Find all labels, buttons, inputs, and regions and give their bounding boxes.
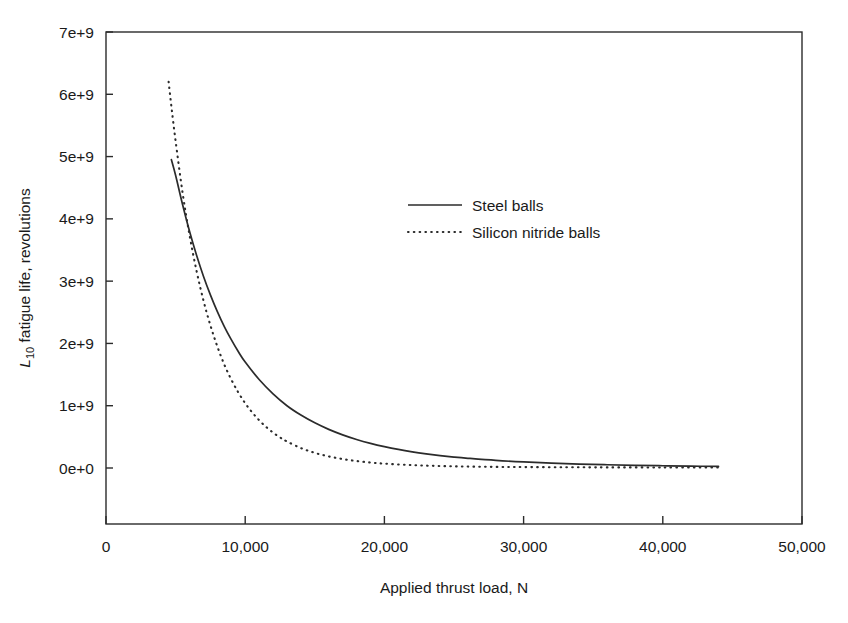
legend-label-steel-balls: Steel balls — [472, 197, 544, 214]
legend-label-silicon-nitride-balls: Silicon nitride balls — [472, 224, 601, 241]
fatigue-life-line-chart: 0e+01e+92e+93e+94e+95e+96e+97e+9 010,000… — [0, 0, 848, 623]
y-tick-label: 0e+0 — [59, 460, 94, 477]
y-tick-label: 3e+9 — [59, 273, 94, 290]
x-tick-label: 0 — [102, 538, 111, 555]
y-tick-label: 4e+9 — [59, 210, 94, 227]
y-axis-title-rest: fatigue life, revolutions — [16, 188, 33, 347]
y-tick-label: 6e+9 — [59, 86, 94, 103]
x-tick-label: 20,000 — [361, 538, 409, 555]
y-tick-label: 2e+9 — [59, 335, 94, 352]
y-tick-label: 5e+9 — [59, 148, 94, 165]
y-tick-label: 1e+9 — [59, 397, 94, 414]
x-tick-label: 10,000 — [221, 538, 269, 555]
figure-container: 0e+01e+92e+93e+94e+95e+96e+97e+9 010,000… — [0, 0, 848, 623]
y-axis-title-symbol: L — [16, 359, 33, 368]
y-tick-label: 7e+9 — [59, 24, 94, 41]
y-axis-title-subscript: 10 — [24, 347, 36, 359]
chart-background — [0, 0, 848, 623]
x-axis-title: Applied thrust load, N — [380, 579, 528, 596]
x-tick-label: 30,000 — [500, 538, 548, 555]
x-tick-label: 50,000 — [778, 538, 826, 555]
x-tick-label: 40,000 — [639, 538, 687, 555]
